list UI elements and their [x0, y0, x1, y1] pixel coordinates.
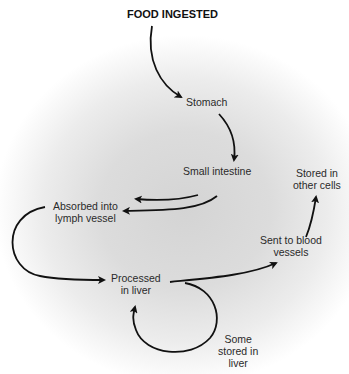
node-processed-liver-line2: in liver — [111, 284, 161, 296]
arrow-small-intestine-to-lymph — [124, 196, 217, 211]
node-sent-blood: Sent to blood vessels — [260, 234, 322, 258]
node-processed-liver-line1: Processed — [111, 272, 161, 284]
node-sent-blood-line1: Sent to blood — [260, 234, 322, 246]
node-absorbed-lymph: Absorbed into lymph vessel — [53, 200, 118, 224]
arrow-stomach-to-small-intestine — [219, 114, 234, 160]
node-absorbed-lymph-line2: lymph vessel — [53, 212, 118, 224]
arrow-food-to-stomach — [151, 26, 181, 97]
arrow-blood-to-other-cells — [306, 197, 316, 237]
node-sent-blood-line2: vessels — [260, 246, 322, 258]
node-stored-cells-line2: other cells — [293, 179, 341, 191]
node-processed-liver: Processed in liver — [111, 272, 161, 296]
node-some-stored-liver: Some stored in liver — [218, 333, 258, 369]
node-stored-liver-line3: liver — [218, 357, 258, 369]
node-stomach: Stomach — [186, 96, 227, 108]
title-food-ingested: FOOD INGESTED — [127, 8, 218, 20]
node-stored-liver-line2: stored in — [218, 345, 258, 357]
node-small-intestine: Small intestine — [183, 165, 251, 177]
arrow-liver-to-blood — [170, 263, 276, 282]
arrow-small-intestine-to-left — [136, 195, 198, 200]
node-absorbed-lymph-line1: Absorbed into — [53, 200, 118, 212]
node-stored-cells-line1: Stored in — [293, 167, 341, 179]
node-stored-liver-line1: Some — [218, 333, 258, 345]
node-stored-other-cells: Stored in other cells — [293, 167, 341, 191]
